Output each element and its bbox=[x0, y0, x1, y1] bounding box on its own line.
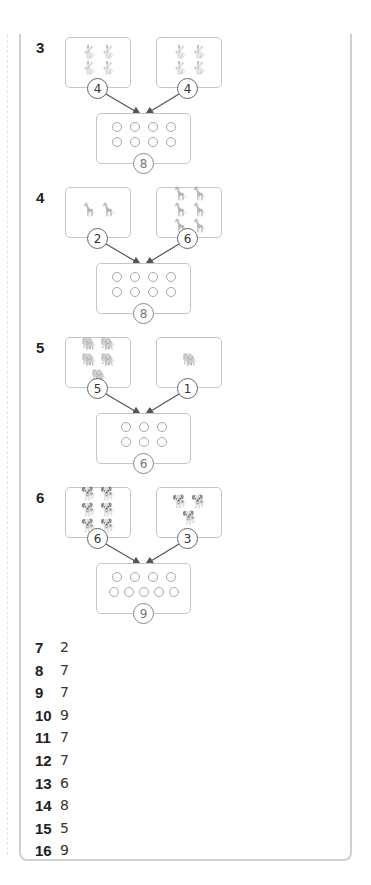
dog-icon: 🐕 bbox=[182, 511, 197, 525]
question-number: 15 bbox=[35, 820, 60, 840]
giraffe-icon: 🦒 bbox=[81, 203, 96, 217]
problem-number: 5 bbox=[36, 339, 44, 356]
empty-counter-icon bbox=[130, 122, 140, 132]
question-number: 7 bbox=[35, 639, 60, 659]
answer-row: 127 bbox=[35, 752, 69, 772]
empty-counter-icon bbox=[112, 272, 122, 282]
giraffe-icon: 🦒 bbox=[100, 203, 115, 217]
rabbit-icon: 🐇 bbox=[81, 45, 96, 59]
empty-counter-icon bbox=[157, 437, 167, 447]
dog-icon: 🐕 bbox=[191, 495, 206, 509]
counter-row bbox=[109, 587, 179, 597]
answer-value: 9 bbox=[60, 842, 69, 862]
empty-counter-icon bbox=[139, 437, 149, 447]
empty-counter-icon bbox=[121, 437, 131, 447]
empty-counter-icon bbox=[112, 287, 122, 297]
counter-row bbox=[112, 122, 176, 132]
question-number: 10 bbox=[35, 707, 60, 727]
empty-counter-icon bbox=[166, 272, 176, 282]
answer-value: 9 bbox=[60, 707, 69, 727]
problem-number: 6 bbox=[36, 489, 44, 506]
empty-counter-icon bbox=[148, 137, 158, 147]
counter-row bbox=[121, 422, 167, 432]
counter-row bbox=[112, 272, 176, 282]
empty-counter-icon bbox=[166, 572, 176, 582]
answer-row: 117 bbox=[35, 729, 69, 749]
rabbit-icon: 🐇 bbox=[191, 61, 206, 75]
total-count-circle: 6 bbox=[133, 453, 154, 474]
question-number: 9 bbox=[35, 684, 60, 704]
answer-value: 7 bbox=[60, 752, 69, 772]
empty-counter-icon bbox=[148, 572, 158, 582]
rabbit-icon: 🐇 bbox=[100, 45, 115, 59]
answer-row: 97 bbox=[35, 684, 69, 704]
dog-icon: 🐕 bbox=[81, 487, 96, 501]
problem-number: 4 bbox=[36, 189, 44, 206]
answer-row: 72 bbox=[35, 639, 69, 659]
empty-counter-icon bbox=[112, 122, 122, 132]
elephant-icon: 🐘 bbox=[100, 337, 115, 351]
answer-value: 2 bbox=[60, 639, 69, 659]
answer-value: 7 bbox=[60, 662, 69, 682]
empty-counter-icon bbox=[139, 587, 149, 597]
elephant-icon: 🐘 bbox=[81, 353, 96, 367]
empty-counter-icon bbox=[148, 272, 158, 282]
empty-counter-icon bbox=[166, 287, 176, 297]
giraffe-icon: 🦒 bbox=[191, 203, 206, 217]
question-number: 13 bbox=[35, 775, 60, 795]
question-number: 14 bbox=[35, 797, 60, 817]
empty-counter-icon bbox=[121, 422, 131, 432]
answer-value: 7 bbox=[60, 729, 69, 749]
rabbit-icon: 🐇 bbox=[191, 45, 206, 59]
answer-row: 136 bbox=[35, 775, 69, 795]
total-count-circle: 8 bbox=[133, 303, 154, 324]
elephant-icon: 🐘 bbox=[81, 337, 96, 351]
rabbit-icon: 🐇 bbox=[172, 45, 187, 59]
empty-counter-icon bbox=[154, 587, 164, 597]
question-number: 8 bbox=[35, 662, 60, 682]
empty-counter-icon bbox=[124, 587, 134, 597]
empty-counter-icon bbox=[112, 572, 122, 582]
dog-icon: 🐕 bbox=[100, 487, 115, 501]
empty-counter-icon bbox=[166, 122, 176, 132]
rabbit-icon: 🐇 bbox=[81, 61, 96, 75]
empty-counter-icon bbox=[130, 287, 140, 297]
giraffe-icon: 🦒 bbox=[191, 187, 206, 201]
answer-row: 148 bbox=[35, 797, 69, 817]
rabbit-icon: 🐇 bbox=[172, 61, 187, 75]
empty-counter-icon bbox=[139, 422, 149, 432]
counter-row bbox=[121, 437, 167, 447]
empty-counter-icon bbox=[148, 122, 158, 132]
answer-row: 169 bbox=[35, 842, 69, 862]
empty-counter-icon bbox=[109, 587, 119, 597]
answer-value: 5 bbox=[60, 820, 69, 840]
dog-icon: 🐕 bbox=[81, 503, 96, 517]
question-number: 12 bbox=[35, 752, 60, 772]
total-count-circle: 8 bbox=[133, 153, 154, 174]
counter-row bbox=[112, 287, 176, 297]
empty-counter-icon bbox=[148, 287, 158, 297]
empty-counter-icon bbox=[130, 272, 140, 282]
empty-counter-icon bbox=[157, 422, 167, 432]
question-number: 16 bbox=[35, 842, 60, 862]
answer-value: 8 bbox=[60, 797, 69, 817]
problem-number: 3 bbox=[36, 39, 44, 56]
empty-counter-icon bbox=[166, 137, 176, 147]
answer-value: 7 bbox=[60, 684, 69, 704]
counter-row bbox=[112, 572, 176, 582]
giraffe-icon: 🦒 bbox=[172, 203, 187, 217]
counter-row bbox=[112, 137, 176, 147]
adjacent-page-edge bbox=[0, 35, 8, 855]
empty-counter-icon bbox=[169, 587, 179, 597]
giraffe-icon: 🦒 bbox=[172, 187, 187, 201]
answer-value: 6 bbox=[60, 775, 69, 795]
dog-icon: 🐕 bbox=[100, 503, 115, 517]
empty-counter-icon bbox=[130, 137, 140, 147]
question-number: 11 bbox=[35, 729, 60, 749]
rabbit-icon: 🐇 bbox=[100, 61, 115, 75]
empty-counter-icon bbox=[112, 137, 122, 147]
answer-row: 155 bbox=[35, 820, 69, 840]
dog-icon: 🐕 bbox=[172, 495, 187, 509]
answer-row: 109 bbox=[35, 707, 69, 727]
elephant-icon: 🐘 bbox=[182, 353, 197, 367]
